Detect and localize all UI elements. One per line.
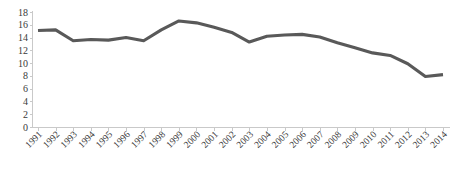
x-axis-tick-label: 2002 — [217, 129, 238, 150]
y-axis-tick-label: 4 — [23, 96, 28, 107]
x-axis-tick-label: 2001 — [199, 129, 220, 150]
x-axis-tick-label: 2008 — [323, 129, 344, 150]
x-axis-tick-label: 2014 — [428, 129, 449, 150]
x-axis-tick-label: 1993 — [59, 129, 80, 150]
x-axis-tick-label: 2006 — [288, 129, 309, 150]
y-axis-tick-label: 18 — [18, 7, 28, 18]
data-series-line — [38, 21, 443, 77]
y-axis-tick-label: 6 — [23, 83, 28, 94]
line-chart-figure: 024681012141618 199119921993199419951996… — [0, 0, 457, 172]
y-axis-tick-label: 0 — [23, 122, 28, 133]
x-axis-tick-label: 2012 — [393, 129, 414, 150]
x-axis-tick-label: 2009 — [340, 129, 361, 150]
x-axis-tick-label: 1999 — [164, 129, 185, 150]
x-axis-tick-label: 2007 — [305, 129, 326, 150]
x-axis-tick-label: 2004 — [252, 129, 273, 150]
x-axis-tick-label: 2005 — [270, 129, 291, 150]
y-axis-tick-label: 16 — [18, 19, 28, 30]
y-axis-tick-labels: 024681012141618 — [18, 7, 28, 133]
x-axis-tick-label: 1997 — [129, 129, 150, 150]
x-axis-tick-labels: 1991199219931994199519961997199819992000… — [23, 129, 449, 150]
y-axis-tick-label: 14 — [18, 32, 28, 43]
x-axis-tick-label: 2013 — [411, 129, 432, 150]
y-axis-tick-label: 12 — [18, 45, 28, 56]
x-axis-tick-label: 2003 — [235, 129, 256, 150]
x-axis-tick-label: 1994 — [76, 129, 97, 150]
x-axis-tick-label: 1992 — [41, 129, 62, 150]
x-axis-tick-label: 2011 — [376, 129, 396, 149]
x-axis-tick-label: 2010 — [358, 129, 379, 150]
chart-canvas: 024681012141618 199119921993199419951996… — [0, 0, 457, 172]
y-axis-tick-label: 10 — [18, 58, 28, 69]
x-axis-tick-label: 2000 — [182, 129, 203, 150]
y-axis-tick-label: 8 — [23, 70, 28, 81]
x-axis-tick-label: 1995 — [94, 129, 115, 150]
x-axis-tick-label: 1998 — [147, 129, 168, 150]
y-axis-tick-label: 2 — [23, 109, 28, 120]
x-axis-tick-label: 1996 — [111, 129, 132, 150]
